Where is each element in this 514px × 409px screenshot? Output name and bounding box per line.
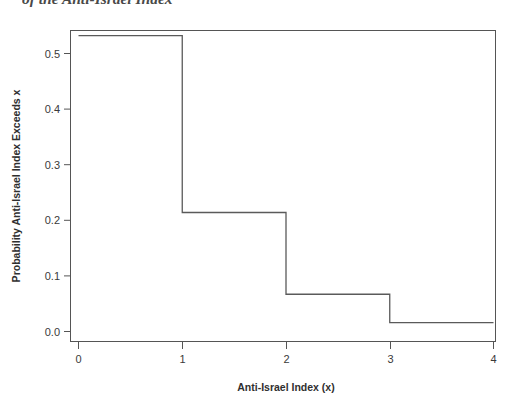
x-tick-label: 2: [283, 353, 289, 365]
y-tick-label: 0.3: [45, 159, 60, 171]
x-tick-label: 0: [75, 353, 81, 365]
y-axis-tick-labels: 0.0 0.1 0.2 0.3 0.4 0.5: [45, 48, 60, 338]
x-tick-label: 3: [387, 353, 393, 365]
y-tick-label: 0.5: [45, 48, 60, 60]
plot-frame: [71, 31, 496, 342]
y-axis-ticks: [64, 54, 70, 332]
y-tick-label: 0.4: [45, 103, 60, 115]
chart-plot: 0.0 0.1 0.2 0.3 0.4 0.5 0 1 2 3 4 Anti-I…: [0, 0, 514, 409]
x-axis-title: Anti-Israel Index (x): [237, 381, 334, 393]
x-tick-label: 1: [179, 353, 185, 365]
y-tick-label: 0.1: [45, 270, 60, 282]
x-axis-tick-labels: 0 1 2 3 4: [75, 353, 496, 365]
x-axis-ticks: [79, 342, 494, 349]
y-axis-title: Probability Anti-Israel Index Exceeds x: [10, 89, 22, 282]
x-tick-label: 4: [490, 353, 496, 365]
y-tick-label: 0.0: [45, 326, 60, 338]
y-tick-label: 0.2: [45, 214, 60, 226]
figure-container: of the Anti-Israel Index 0.0 0.1 0.2 0.3…: [0, 0, 514, 409]
survival-step-curve: [79, 36, 494, 323]
